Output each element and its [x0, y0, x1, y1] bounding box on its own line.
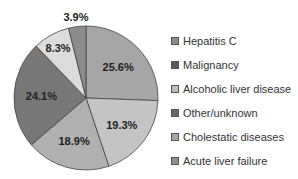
slice-value-label: 8.3% — [46, 42, 71, 54]
legend-item-alcoholic-liver-disease: Alcoholic liver disease — [171, 77, 291, 101]
slice-value-label: 24.1% — [26, 90, 57, 102]
pie-chart: 25.6%19.3%18.9%24.1%8.3%3.9% — [0, 0, 170, 179]
legend-swatch — [171, 61, 179, 69]
legend: Hepatitis C Malignancy Alcoholic liver d… — [171, 29, 291, 173]
legend-swatch — [171, 157, 179, 165]
legend-item-hepatitis-c: Hepatitis C — [171, 29, 291, 53]
legend-label: Cholestatic diseases — [183, 131, 284, 143]
legend-label: Malignancy — [183, 59, 239, 71]
slice-value-label: 3.9% — [63, 11, 88, 23]
slice-value-label: 25.6% — [103, 61, 134, 73]
legend-swatch — [171, 85, 179, 93]
legend-label: Acute liver failure — [183, 155, 267, 167]
legend-label: Alcoholic liver disease — [183, 83, 291, 95]
legend-item-cholestatic-diseases: Cholestatic diseases — [171, 125, 291, 149]
slice-value-label: 19.3% — [106, 119, 137, 131]
legend-swatch — [171, 109, 179, 117]
legend-item-acute-liver-failure: Acute liver failure — [171, 149, 291, 173]
legend-label: Hepatitis C — [183, 35, 237, 47]
legend-label: Other/unknown — [183, 107, 258, 119]
legend-item-other-unknown: Other/unknown — [171, 101, 291, 125]
legend-swatch — [171, 37, 179, 45]
legend-swatch — [171, 133, 179, 141]
slice-value-label: 18.9% — [58, 135, 89, 147]
legend-item-malignancy: Malignancy — [171, 53, 291, 77]
